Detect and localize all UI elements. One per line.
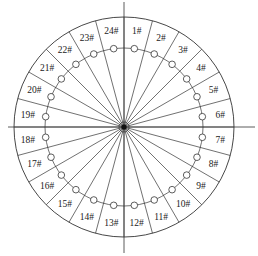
sector-label: 1# bbox=[132, 26, 142, 36]
sector-label: 24# bbox=[104, 26, 119, 36]
sector-label: 3# bbox=[178, 45, 188, 55]
sector-label: 22# bbox=[58, 45, 73, 55]
sector-label: 8# bbox=[209, 159, 219, 169]
ring-node bbox=[169, 61, 176, 68]
ring-node bbox=[110, 202, 117, 209]
sector-label: 6# bbox=[215, 110, 225, 120]
sector-label: 20# bbox=[27, 85, 42, 95]
sector-label: 7# bbox=[215, 135, 225, 145]
ring-node bbox=[183, 76, 190, 83]
sector-label: 13# bbox=[104, 218, 119, 228]
sector-label: 21# bbox=[40, 63, 55, 73]
ring-node bbox=[199, 113, 206, 120]
sector-label: 11# bbox=[154, 212, 168, 222]
sector-label: 2# bbox=[156, 33, 166, 43]
ring-node bbox=[151, 197, 158, 204]
ring-node bbox=[90, 197, 97, 204]
sector-label: 4# bbox=[196, 63, 206, 73]
spoke-line bbox=[124, 127, 152, 233]
hub-dot bbox=[121, 124, 126, 129]
ring-node bbox=[194, 93, 201, 100]
ring-node bbox=[58, 172, 65, 179]
ring-node bbox=[48, 154, 55, 161]
ring-node bbox=[48, 93, 55, 100]
ring-node bbox=[131, 45, 138, 52]
spoke-line bbox=[124, 49, 202, 127]
spoke-line bbox=[124, 99, 230, 127]
sector-label: 23# bbox=[80, 33, 95, 43]
spoke-line bbox=[124, 127, 202, 205]
ring-node bbox=[73, 186, 80, 193]
sector-label: 17# bbox=[27, 159, 42, 169]
ring-node bbox=[73, 61, 80, 68]
ring-node bbox=[169, 186, 176, 193]
ring-node bbox=[194, 154, 201, 161]
ring-node bbox=[42, 113, 49, 120]
sector-label: 9# bbox=[196, 181, 206, 191]
ring-node bbox=[110, 45, 117, 52]
ring-node bbox=[199, 134, 206, 141]
sector-label: 16# bbox=[40, 181, 55, 191]
sector-label: 15# bbox=[58, 199, 73, 209]
spoke-line bbox=[46, 49, 124, 127]
spoke-line bbox=[46, 127, 124, 205]
spoke-line bbox=[96, 21, 124, 127]
sector-diagram: 1#2#3#4#5#6#7#8#9#10#11#12#13#14#15#16#1… bbox=[0, 0, 258, 256]
sector-label: 19# bbox=[21, 110, 36, 120]
sector-label: 18# bbox=[21, 135, 36, 145]
sector-label: 14# bbox=[80, 212, 95, 222]
ring-node bbox=[151, 51, 158, 58]
spoke-line bbox=[124, 127, 230, 155]
ring-node bbox=[183, 172, 190, 179]
ring-node bbox=[42, 134, 49, 141]
sector-label: 5# bbox=[209, 85, 219, 95]
sector-label: 12# bbox=[130, 218, 145, 228]
spoke-line bbox=[96, 127, 124, 233]
ring-node bbox=[58, 76, 65, 83]
ring-node bbox=[131, 202, 138, 209]
sector-label: 10# bbox=[176, 199, 191, 209]
spoke-line bbox=[124, 21, 152, 127]
ring-node bbox=[90, 51, 97, 58]
